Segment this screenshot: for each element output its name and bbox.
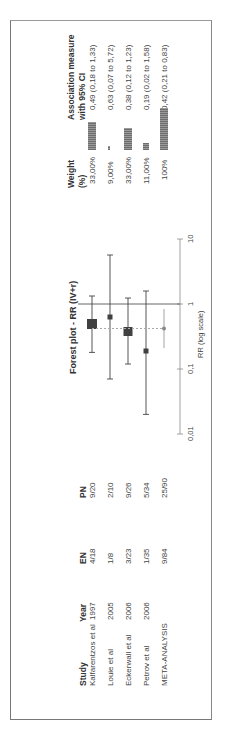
tick-label-0.01: 0,01: [186, 426, 195, 441]
study-marker: [107, 255, 113, 379]
study-marker: [143, 291, 149, 414]
forest-plot-figure: Study Year EN PN Forest plot - RR (IV+r)…: [10, 16, 216, 720]
tick-label-10: 10: [186, 235, 195, 243]
study-marker: [87, 296, 97, 352]
tick-label-0.1: 0,1: [186, 364, 195, 374]
forest-plot: [10, 16, 216, 720]
study-marker: [123, 298, 132, 364]
pooled-estimate: [92, 309, 166, 348]
tick-label-1: 1: [186, 302, 195, 306]
x-axis-label: RR (log scale): [196, 310, 205, 358]
